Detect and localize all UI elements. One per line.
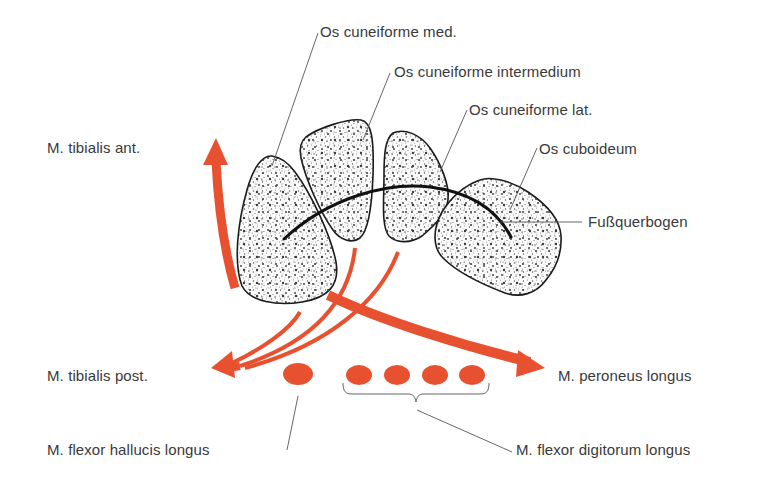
label-os-cuneiforme-lat: Os cuneiforme lat. bbox=[469, 101, 593, 119]
label-m-flexor-hallucis-longus: M. flexor hallucis longus bbox=[47, 441, 210, 459]
brace-flexor-digitorum bbox=[343, 383, 489, 402]
label-m-tibialis-post: M. tibialis post. bbox=[47, 367, 148, 385]
foot-transverse-arch-diagram: Os cuneiforme med. Os cuneiforme interme… bbox=[0, 0, 776, 481]
arrow-peroneus-longus bbox=[328, 295, 545, 377]
tendons-flexor-digitorum-longus bbox=[346, 365, 485, 385]
label-m-flexor-digitorum-longus: M. flexor digitorum longus bbox=[516, 441, 690, 459]
label-os-cuneiforme-intermedium: Os cuneiforme intermedium bbox=[394, 63, 581, 81]
label-fussquerbogen: Fußquerbogen bbox=[588, 213, 688, 231]
label-m-peroneus-longus: M. peroneus longus bbox=[558, 367, 692, 385]
diagram-canvas bbox=[0, 0, 776, 481]
label-os-cuneiforme-med: Os cuneiforme med. bbox=[320, 23, 457, 41]
label-os-cuboideum: Os cuboideum bbox=[539, 140, 637, 158]
bone-os-cuboideum bbox=[435, 179, 561, 296]
tendon-flexor-hallucis-longus bbox=[283, 363, 313, 385]
label-m-tibialis-ant: M. tibialis ant. bbox=[47, 139, 140, 157]
arrow-tibialis-ant bbox=[203, 138, 235, 288]
